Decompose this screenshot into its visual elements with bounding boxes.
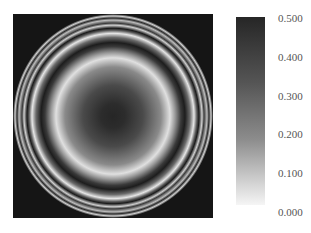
colorbar-tick: 0.300 (278, 90, 303, 102)
colorbar-tick: 0.100 (278, 167, 303, 179)
ring-pattern (13, 14, 213, 218)
colorbar-tick: 0.000 (278, 206, 303, 218)
colorbar-tick: 0.200 (278, 128, 303, 140)
colorbar (236, 17, 265, 205)
colorbar-tick: 0.400 (278, 51, 303, 63)
heatmap-plot (13, 14, 213, 218)
colorbar-tick: 0.500 (278, 12, 303, 24)
